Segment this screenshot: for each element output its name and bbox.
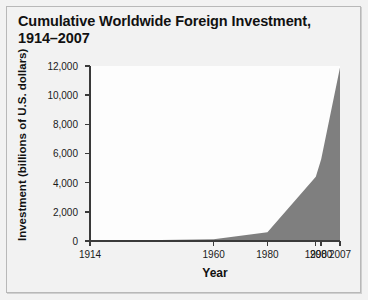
x-tick-label: 1914 [79,249,101,260]
x-axis-line [89,240,340,242]
y-tick: 2,000 [85,211,90,212]
x-tick [320,241,321,246]
y-tick-label: 0 [72,235,78,246]
y-tick: 4,000 [85,182,90,183]
area-series [90,66,340,241]
x-tick [339,241,340,246]
x-tick [89,241,90,246]
y-tick-label: 2,000 [53,206,78,217]
y-tick-label: 6,000 [53,148,78,159]
x-axis-title: Year [90,266,340,280]
y-tick-label: 12,000 [47,61,78,72]
x-tick [267,241,268,246]
chart-title: Cumulative Worldwide Foreign Investment,… [18,13,348,47]
x-tick-label: 1980 [256,249,278,260]
y-tick-label: 10,000 [47,90,78,101]
chart-figure: Cumulative Worldwide Foreign Investment,… [0,0,368,300]
x-tick [315,241,316,246]
plot-area: 02,0004,0006,0008,00010,00012,000 191419… [90,66,340,241]
y-tick: 12,000 [85,65,90,66]
y-tick-label: 8,000 [53,119,78,130]
x-tick [213,241,214,246]
x-tick-label: 1960 [203,249,225,260]
y-axis-title: Investment (billions of U.S. dollars) [14,66,30,241]
y-tick: 8,000 [85,124,90,125]
y-tick-label: 4,000 [53,177,78,188]
y-tick: 10,000 [85,94,90,95]
y-tick: 6,000 [85,153,90,154]
x-tick-label: 2007 [329,249,351,260]
